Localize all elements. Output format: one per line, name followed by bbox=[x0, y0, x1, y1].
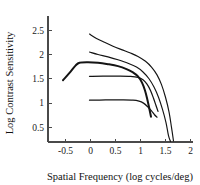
x-axis-title: Spatial Frequency (log cycles/deg) bbox=[47, 171, 194, 183]
y-tick-label-3: 2 bbox=[39, 50, 44, 60]
series-lower-plateau-curve bbox=[90, 100, 158, 117]
x-tick-label-0: -0.5 bbox=[58, 146, 73, 156]
y-tick-label-4: 2.5 bbox=[32, 26, 44, 36]
ticks-group bbox=[48, 30, 191, 142]
x-tick-label-3: 1 bbox=[138, 146, 143, 156]
y-axis-title: Log Contrast Sensitivity bbox=[4, 31, 15, 134]
y-tick-label-0: 0.5 bbox=[32, 123, 44, 133]
y-tick-label-1: 1 bbox=[39, 98, 44, 108]
contrast-sensitivity-figure: -0.500.511.52 0.511.522.5 Spatial Freque… bbox=[0, 0, 200, 185]
x-tick-labels: -0.500.511.52 bbox=[58, 146, 193, 156]
y-tick-label-2: 1.5 bbox=[32, 74, 44, 84]
x-tick-label-4: 1.5 bbox=[160, 146, 172, 156]
series-highest-sensitivity-curve bbox=[90, 34, 174, 141]
series-thick-peaked-curve bbox=[63, 62, 151, 116]
x-tick-label-5: 2 bbox=[188, 146, 193, 156]
y-tick-labels: 0.511.522.5 bbox=[32, 26, 44, 133]
x-tick-label-2: 0.5 bbox=[110, 146, 122, 156]
series-second-sensitivity-curve bbox=[90, 52, 171, 141]
x-tick-label-1: 0 bbox=[88, 146, 93, 156]
chart-canvas: -0.500.511.52 0.511.522.5 Spatial Freque… bbox=[0, 0, 200, 185]
curves-group bbox=[63, 34, 174, 141]
